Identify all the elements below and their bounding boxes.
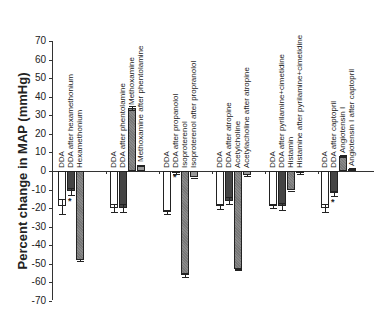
error-cap [244,174,251,175]
bar-label: Angiotensin I after captopril [348,69,356,166]
y-tick [49,282,52,283]
error-cap [77,261,84,262]
bar-label: Isoproterenol after propranolol [190,61,198,168]
y-tick [49,190,52,191]
bar [119,171,127,208]
bar-label: Hexamethonium [76,110,84,168]
error-cap [279,210,286,211]
error-cap [297,172,304,173]
error-cap [59,199,66,200]
bar-chart: Percent change in MAP (mmHg) 70605040302… [0,0,384,320]
bar-label: Acetylacholine after atropine [243,67,251,168]
error-cap [120,212,127,213]
error-cap [297,174,304,175]
y-tick [49,227,52,228]
y-tick [49,41,52,42]
y-tick-label: 10 [22,147,46,157]
y-tick [49,115,52,116]
y-tick-label: -40 [22,240,46,250]
error-cap [340,157,347,158]
y-tick-label: 20 [22,129,46,139]
error-cap [235,270,242,271]
error-bar [325,204,326,211]
y-tick-label: -70 [22,296,46,306]
bar-label: DDA [321,151,329,168]
bar-label: DDA [110,151,118,168]
y-tick-label: 60 [22,55,46,65]
error-cap [322,204,329,205]
significance-asterisk: * [331,197,335,207]
error-cap [120,204,127,205]
bar-label: Histamin [287,137,295,168]
bar-label: DDA after pyrilamine+cimetidine [278,54,286,168]
error-bar [71,188,72,195]
y-tick [49,78,52,79]
error-cap [59,214,66,215]
x-group-tick [159,171,160,174]
y-tick [49,152,52,153]
bar-label: Isoproterenol [181,121,189,168]
bar-label: Methoxamine after phentolamine [137,46,145,163]
bar [339,156,347,171]
error-cap [270,208,277,209]
error-bar [282,203,283,210]
error-cap [138,166,145,167]
error-cap [322,212,329,213]
bar [110,171,118,208]
bar [321,171,329,208]
error-cap [244,176,251,177]
error-cap [226,204,233,205]
error-cap [349,170,356,171]
error-bar [114,204,115,211]
y-tick-label: -50 [22,259,46,269]
error-cap [138,165,145,166]
error-bar [62,199,63,214]
error-bar [123,204,124,211]
error-cap [129,110,136,111]
bar-label: Methoxamine [128,57,136,105]
y-tick [49,97,52,98]
error-cap [111,204,118,205]
y-tick [49,208,52,209]
y-tick [49,301,52,302]
bar-label: DDA [269,151,277,168]
bar-label: DDA after phentolamine [119,83,127,168]
error-cap [331,191,338,192]
y-tick-label: 30 [22,110,46,120]
y-tick [49,245,52,246]
significance-asterisk: * [173,172,177,182]
bar [163,171,171,212]
error-cap [279,203,286,204]
error-cap [217,209,224,210]
y-tick-label: -20 [22,203,46,213]
y-tick-label: 40 [22,92,46,102]
error-bar [229,197,230,204]
bar [234,171,242,269]
x-group-tick [318,171,319,174]
bar-label: DDA after propanolol [172,94,180,168]
bar-label: Acetylcholine [234,121,242,168]
bar [216,171,224,206]
y-tick [49,171,52,172]
error-cap [129,106,136,107]
y-tick-label: -10 [22,185,46,195]
y-tick-label: 50 [22,73,46,83]
bar-label: DDA [216,151,224,168]
y-tick [49,134,52,135]
error-cap [349,168,356,169]
error-cap [182,273,189,274]
bar [278,171,286,206]
y-tick-label: 70 [22,36,46,46]
bar-label: DDA [58,151,66,168]
error-cap [77,259,84,260]
bar-label: Angiotensin I [339,107,347,153]
error-cap [226,197,233,198]
x-group-tick [265,171,266,174]
y-tick [49,60,52,61]
error-cap [68,188,75,189]
error-cap [288,191,295,192]
bar-label: Histamine after pyrilamine+cimetidine [296,35,304,168]
x-group-tick [106,171,107,174]
error-cap [191,176,198,177]
bar [76,171,84,260]
